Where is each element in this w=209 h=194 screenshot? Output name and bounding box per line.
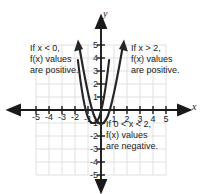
ytick-label-4: 4 [86, 53, 98, 63]
ytick-label-neg4: -4 [83, 157, 98, 167]
annotation-right-region: If x > 2, f(x) values are positive. [131, 43, 180, 76]
annotation-middle-line2: f(x) values [106, 130, 158, 141]
xtick-label-neg2: -2 [68, 112, 82, 122]
annotation-middle-line1: If 0 < x < 2, [106, 119, 158, 130]
ytick-label-1: 1 [86, 92, 98, 102]
xtick-label-neg5: -5 [29, 112, 43, 122]
y-axis-arrow-down [96, 180, 106, 192]
x-axis-arrow-right [178, 105, 190, 115]
ytick-label-neg3: -3 [83, 144, 98, 154]
xtick-label-5: 5 [160, 114, 172, 124]
ytick-label-neg2: -2 [83, 131, 98, 141]
xtick-label-neg3: -3 [55, 112, 69, 122]
annotation-left-line2: f(x) values [30, 54, 79, 65]
coordinate-plane-svg [0, 0, 209, 194]
x-axis-label: x [192, 101, 196, 112]
annotation-right-line1: If x > 2, [131, 43, 180, 54]
ytick-label-3: 3 [86, 66, 98, 76]
ytick-label-neg5: -5 [83, 170, 98, 180]
parabola-right-arrow [119, 40, 128, 52]
y-axis-label: y [103, 8, 107, 19]
annotation-right-line3: are positive. [131, 65, 180, 76]
annotation-middle-line3: are negative. [106, 141, 158, 152]
ytick-label-2: 2 [86, 79, 98, 89]
xtick-label-neg4: -4 [42, 112, 56, 122]
annotation-left-line3: are positive. [30, 65, 79, 76]
x-axis-arrow-left [8, 105, 20, 115]
annotation-middle-region: If 0 < x < 2, f(x) values are negative. [106, 119, 158, 152]
annotation-left-line1: If x < 0, [30, 43, 79, 54]
ytick-label-5: 5 [86, 40, 98, 50]
ytick-label-neg1: -1 [83, 118, 98, 128]
annotation-right-line2: f(x) values [131, 54, 180, 65]
graph-figure: y x -5 -4 -3 -2 -1 1 2 3 4 5 5 4 3 2 1 -… [0, 0, 209, 194]
annotation-left-region: If x < 0, f(x) values are positive. [30, 43, 79, 76]
